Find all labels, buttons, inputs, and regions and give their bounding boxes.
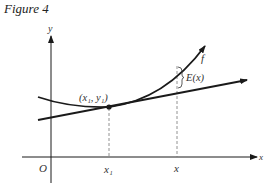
diagram-canvas: y x O x₁ x f E(x) (x₁, y₁) <box>0 0 264 183</box>
tangent-point <box>106 104 111 109</box>
tangent-line <box>38 80 247 120</box>
origin-label: O <box>39 162 47 174</box>
curve-f-label: f <box>201 52 206 64</box>
x-axis-label: x <box>258 152 263 162</box>
x1-tick-label: x₁ <box>103 163 113 175</box>
curve-f <box>38 46 205 107</box>
point-label: (x₁, y₁) <box>79 92 108 104</box>
y-axis-label: y <box>47 23 53 34</box>
x-tick-label: x <box>173 162 179 174</box>
error-label: E(x) <box>185 72 205 84</box>
